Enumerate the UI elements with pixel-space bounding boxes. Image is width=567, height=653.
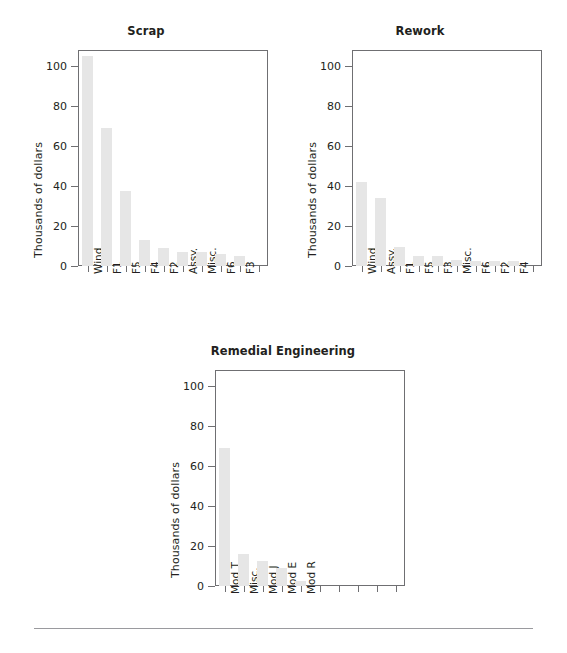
x-axis-tick <box>244 586 245 592</box>
figure-container: Scrap Thousands of dollars020406080100Wi… <box>0 0 567 653</box>
plot-area-rework: Thousands of dollars020406080100WindAssy… <box>292 24 548 320</box>
plot-area-scrap: Thousands of dollars020406080100WindF1F5… <box>18 24 274 320</box>
y-axis-tick <box>345 186 352 187</box>
x-axis-tick <box>225 586 226 592</box>
y-axis-tick-label: 0 <box>155 580 204 593</box>
y-axis-tick-label: 80 <box>155 420 204 433</box>
y-axis-tick <box>71 146 78 147</box>
y-axis-tick <box>208 386 215 387</box>
y-axis-tick <box>208 466 215 467</box>
y-axis-tick <box>208 546 215 547</box>
y-axis-tick <box>71 266 78 267</box>
x-axis-tick-label: F3 <box>244 261 256 274</box>
y-axis-tick-label: 40 <box>155 500 204 513</box>
y-axis-tick-label: 20 <box>155 540 204 553</box>
chart-panel-scrap: Scrap Thousands of dollars020406080100Wi… <box>18 24 274 320</box>
chart-panel-rework: Rework Thousands of dollars020406080100W… <box>292 24 548 320</box>
y-axis-tick <box>345 226 352 227</box>
y-axis-tick-label: 80 <box>18 100 67 113</box>
x-axis-tick <box>362 266 363 272</box>
x-axis-tick <box>145 266 146 272</box>
y-axis-tick-label: 60 <box>292 140 341 153</box>
y-axis-tick-label: 100 <box>18 60 67 73</box>
y-axis-tick-label: 80 <box>292 100 341 113</box>
x-axis-tick <box>320 586 321 592</box>
x-axis-tick <box>88 266 89 272</box>
bar <box>101 128 113 266</box>
y-axis-tick <box>71 66 78 67</box>
bar <box>120 191 132 266</box>
y-axis-label: Thousands of dollars <box>306 142 319 258</box>
x-axis-tick <box>476 266 477 272</box>
x-axis-tick <box>381 266 382 272</box>
y-axis-tick <box>208 586 215 587</box>
x-axis-tick <box>126 266 127 272</box>
x-axis-tick <box>282 586 283 592</box>
y-axis-tick-label: 20 <box>292 220 341 233</box>
y-axis-tick <box>345 266 352 267</box>
y-axis-tick <box>208 426 215 427</box>
x-axis-tick-label: Mod R <box>305 561 317 594</box>
x-axis-tick <box>533 266 534 272</box>
x-axis-tick <box>301 586 302 592</box>
x-axis-tick <box>438 266 439 272</box>
y-axis-tick <box>71 226 78 227</box>
x-axis-tick <box>183 266 184 272</box>
bar <box>82 56 94 266</box>
x-axis-tick-label: Mod E <box>286 562 298 594</box>
x-axis-tick <box>164 266 165 272</box>
plot-area-remedial-engineering: Thousands of dollars020406080100Mod TMis… <box>155 344 411 640</box>
y-axis-label: Thousands of dollars <box>32 142 45 258</box>
x-axis-tick <box>400 266 401 272</box>
y-axis-tick-label: 0 <box>18 260 67 273</box>
x-axis-tick <box>358 586 359 592</box>
y-axis-tick-label: 60 <box>155 460 204 473</box>
y-axis-tick <box>345 146 352 147</box>
x-axis-tick <box>221 266 222 272</box>
x-axis-tick <box>263 586 264 592</box>
y-axis-tick <box>345 106 352 107</box>
y-axis-tick-label: 40 <box>292 180 341 193</box>
y-axis-tick <box>71 106 78 107</box>
y-axis-tick <box>345 66 352 67</box>
y-axis-tick-label: 40 <box>18 180 67 193</box>
x-axis-tick <box>377 586 378 592</box>
x-axis-tick <box>457 266 458 272</box>
x-axis-tick <box>495 266 496 272</box>
y-axis-tick-label: 100 <box>155 380 204 393</box>
y-axis-tick-label: 100 <box>292 60 341 73</box>
y-axis-tick <box>71 186 78 187</box>
y-axis-tick-label: 60 <box>18 140 67 153</box>
x-axis-tick <box>107 266 108 272</box>
footer-divider <box>34 628 533 629</box>
x-axis-tick <box>514 266 515 272</box>
x-axis-tick-label: F4 <box>518 261 530 274</box>
y-axis-tick <box>208 506 215 507</box>
x-axis-tick <box>396 586 397 592</box>
x-axis-tick <box>240 266 241 272</box>
x-axis-tick <box>419 266 420 272</box>
y-axis-tick-label: 0 <box>292 260 341 273</box>
x-axis-tick <box>339 586 340 592</box>
x-axis-tick <box>259 266 260 272</box>
y-axis-label: Thousands of dollars <box>169 462 182 578</box>
y-axis-tick-label: 20 <box>18 220 67 233</box>
chart-panel-remedial-engineering: Remedial Engineering Thousands of dollar… <box>155 344 411 640</box>
x-axis-tick <box>202 266 203 272</box>
